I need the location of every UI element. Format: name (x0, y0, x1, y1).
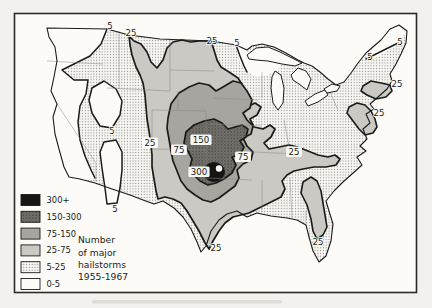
contour-label: 25 (211, 243, 222, 253)
caption-line-3: hailstorms (78, 259, 126, 270)
legend-label-3: 25-75 (47, 245, 71, 255)
contour-label: 300 (191, 167, 207, 177)
contour-label: 25 (289, 147, 300, 157)
hailstorm-map-canvas: 52525555252555257515075253002525 300+150… (0, 0, 432, 308)
contour-label: 150 (193, 135, 209, 145)
legend-label-1: 150-300 (47, 212, 82, 222)
contour-label: 5 (109, 126, 114, 136)
contour-label: 5 (107, 21, 112, 31)
contour-label: 5 (397, 37, 402, 47)
contour-label: 25 (126, 28, 137, 38)
contour-label: 75 (174, 145, 185, 155)
legend-label-2: 75-150 (47, 229, 77, 239)
contour-label: 5 (367, 52, 372, 62)
caption-line-1: Number (78, 234, 115, 245)
contour-label: 25 (207, 36, 218, 46)
legend-label-5: 0-5 (47, 279, 61, 289)
legend-label-4: 5-25 (47, 262, 66, 272)
legend-swatch-4 (21, 262, 40, 273)
hailstorm-map-figure: 52525555252555257515075253002525 300+150… (0, 0, 432, 308)
caption-line-4: 1955-1967 (78, 271, 128, 282)
legend-swatch-2 (21, 228, 40, 239)
scan-smudge (92, 300, 282, 304)
contour-label: 75 (238, 152, 249, 162)
contour-label: 25 (313, 237, 324, 247)
contour-label: 25 (145, 138, 156, 148)
contour-label: 5 (112, 204, 117, 214)
contour-label: 5 (234, 38, 239, 48)
legend-swatch-0 (21, 195, 40, 206)
legend-swatch-5 (21, 279, 40, 290)
zone-300plus-highlight (216, 165, 222, 171)
legend-swatch-1 (21, 211, 40, 222)
legend-swatch-3 (21, 245, 40, 256)
caption-line-2: of major (78, 247, 117, 258)
contour-label: 25 (392, 79, 403, 89)
legend-label-0: 300+ (47, 195, 70, 205)
contour-label: 25 (374, 108, 385, 118)
